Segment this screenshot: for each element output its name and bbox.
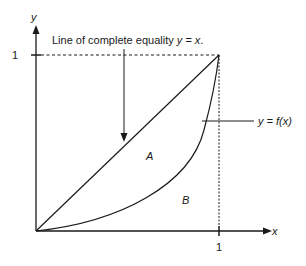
region-b-label: B xyxy=(182,194,189,206)
y-axis-arrow-icon xyxy=(33,25,40,34)
y-axis-label: y xyxy=(31,11,37,23)
curve-label: y = f(x) xyxy=(258,115,292,127)
equality-annotation: Line of complete equality y = x. xyxy=(52,34,203,46)
region-a-label: A xyxy=(146,150,153,162)
x-axis-label: x xyxy=(272,225,278,237)
annotation-suffix: . xyxy=(200,34,203,46)
annotation-arrow-icon xyxy=(121,133,128,142)
x-tick-label: 1 xyxy=(216,241,222,253)
annotation-equation: y = x xyxy=(177,34,201,46)
annotation-prefix: Line of complete equality xyxy=(52,34,177,46)
curve-label-text: y = f(x) xyxy=(258,115,292,127)
y-tick-label: 1 xyxy=(12,49,18,61)
x-axis-arrow-icon xyxy=(263,228,272,235)
equality-line xyxy=(36,55,219,231)
lorenz-curve-diagram: y 1 Line of complete equality y = x. y =… xyxy=(0,0,306,266)
